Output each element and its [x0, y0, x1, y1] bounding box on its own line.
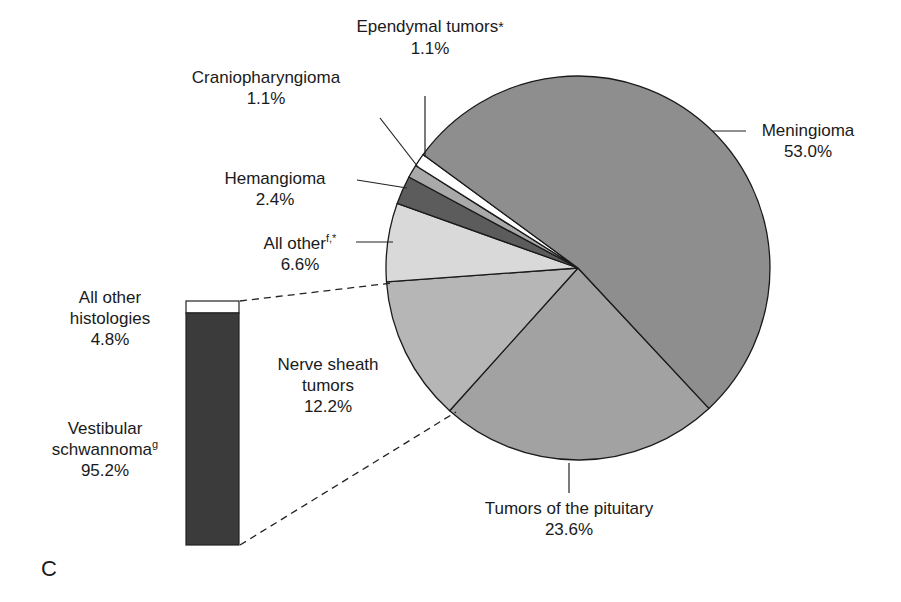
label-nerve: Nerve sheath tumors 12.2%: [263, 354, 393, 417]
label-value: 95.2%: [35, 460, 175, 481]
bar-segment-vestibular: [186, 313, 239, 545]
leader-cranio: [380, 118, 418, 167]
label-sup: *: [498, 19, 503, 35]
label-bar-other: All other histologies 4.8%: [55, 287, 165, 350]
pie-slices: [386, 76, 770, 460]
label-value: 2.4%: [210, 189, 340, 210]
label-pituitary: Tumors of the pituitary 23.6%: [459, 498, 679, 540]
label-value: 4.8%: [55, 329, 165, 350]
connector-dashed-bottom: [240, 412, 456, 545]
label-text: Tumors of the pituitary: [459, 498, 679, 519]
label-value: 1.1%: [180, 88, 352, 109]
label-allother: All otherf,* 6.6%: [250, 233, 350, 275]
label-text-2: schwannoma: [52, 440, 152, 459]
leader-hemangioma: [357, 180, 407, 188]
label-text: Craniopharyngioma: [180, 67, 352, 88]
label-text: Hemangioma: [210, 168, 340, 189]
label-value: 6.6%: [250, 254, 350, 275]
label-text-2: tumors: [263, 375, 393, 396]
label-text: Vestibular: [35, 418, 175, 439]
label-text: Meningioma: [748, 120, 868, 141]
label-hemangioma: Hemangioma 2.4%: [210, 168, 340, 210]
label-text: Nerve sheath: [263, 354, 393, 375]
bar-segment-other: [186, 301, 239, 313]
label-text-2: histologies: [55, 308, 165, 329]
label-value: 53.0%: [748, 141, 868, 162]
label-value: 12.2%: [263, 396, 393, 417]
label-bar-vestibular: Vestibular schwannomag 95.2%: [35, 418, 175, 481]
label-ependymal: Ependymal tumors* 1.1%: [345, 16, 515, 59]
label-meningioma: Meningioma 53.0%: [748, 120, 868, 162]
label-cranio: Craniopharyngioma 1.1%: [180, 67, 352, 109]
breakdown-bar: [186, 301, 239, 545]
label-text: Ependymal tumors: [356, 17, 498, 36]
label-text: All other: [264, 234, 326, 253]
label-sup: f,*: [326, 232, 336, 244]
panel-label: C: [41, 556, 57, 582]
label-sup: g: [152, 438, 158, 450]
connector-dashed-top: [240, 283, 392, 301]
label-value: 1.1%: [345, 38, 515, 59]
label-value: 23.6%: [459, 519, 679, 540]
label-text: All other: [55, 287, 165, 308]
